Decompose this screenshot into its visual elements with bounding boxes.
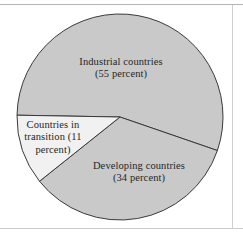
figure-canvas: Industrial countries (55 percent) Develo… [0, 0, 243, 237]
slice-label-industrial-countries: Industrial countries (55 percent) [58, 56, 184, 81]
pie-slice-group [17, 14, 223, 220]
pie-chart: Industrial countries (55 percent) Develo… [0, 0, 243, 237]
slice-label-countries-in-transition: Countries in transition (11 percent) [11, 119, 95, 156]
slice-label-developing-countries: Developing countries (34 percent) [78, 160, 200, 185]
